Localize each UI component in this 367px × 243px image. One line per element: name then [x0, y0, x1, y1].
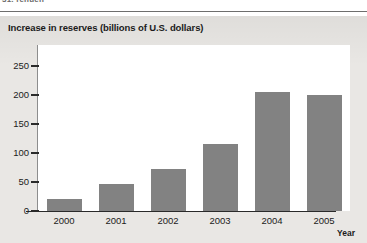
x-axis-label-2005: 2005 — [298, 215, 350, 226]
y-axis-tick-label: 250 — [0, 60, 29, 71]
header-divider — [0, 11, 367, 12]
page-header-text: 31. renuen — [2, 0, 44, 4]
y-axis-tick-label: 0 — [0, 205, 29, 216]
y-axis-tick-label: 50 — [0, 176, 29, 187]
chart-figure: Increase in reserves (billions of U.S. d… — [0, 16, 367, 243]
x-axis-line — [26, 211, 336, 212]
y-axis-tick-label: 200 — [0, 89, 29, 100]
y-axis-tick-label: 150 — [0, 118, 29, 129]
y-axis-tick — [31, 152, 39, 153]
chart-title: Increase in reserves (billions of U.S. d… — [8, 22, 203, 33]
bar-2001 — [99, 184, 134, 211]
bar-2003 — [203, 144, 238, 211]
bar-2002 — [151, 169, 186, 211]
y-axis-tick-label: 100 — [0, 147, 29, 158]
x-axis-label-2001: 2001 — [90, 215, 142, 226]
x-axis-label-2000: 2000 — [38, 215, 90, 226]
bar-2004 — [255, 92, 290, 211]
y-axis-line — [37, 45, 38, 212]
x-axis-label-2002: 2002 — [142, 215, 194, 226]
y-axis-tick — [31, 65, 39, 66]
x-axis-label-2004: 2004 — [246, 215, 298, 226]
bar-2005 — [307, 95, 342, 211]
y-axis-tick — [31, 210, 39, 211]
bar-2000 — [47, 199, 82, 211]
plot-area — [38, 45, 350, 211]
y-axis-tick — [31, 123, 39, 124]
x-axis-title: Year — [337, 228, 355, 238]
y-axis-tick — [31, 94, 39, 95]
x-axis-label-2003: 2003 — [194, 215, 246, 226]
y-axis-tick — [31, 181, 39, 182]
